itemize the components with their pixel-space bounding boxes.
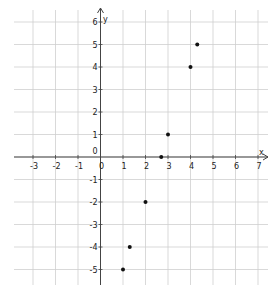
y-tick-label: -5 bbox=[90, 266, 98, 275]
x-tick-label: 2 bbox=[144, 162, 149, 171]
x-tick-label: -1 bbox=[75, 162, 83, 171]
scatter-plot: xy -3-2-101234567-5-4-3-2-11234560 bbox=[0, 0, 280, 302]
x-tick-label: -2 bbox=[53, 162, 61, 171]
x-tick-label: 3 bbox=[166, 162, 171, 171]
y-axis-label: y bbox=[103, 15, 108, 24]
y-tick-label: -2 bbox=[90, 198, 98, 207]
y-tick-label: -4 bbox=[90, 243, 98, 252]
data-point bbox=[144, 200, 148, 204]
data-point bbox=[189, 65, 193, 69]
data-point bbox=[128, 245, 132, 249]
axes: xy bbox=[14, 8, 268, 285]
x-tick-label: 7 bbox=[256, 162, 261, 171]
origin-label: 0 bbox=[92, 147, 97, 156]
y-tick-label: 3 bbox=[92, 86, 97, 95]
data-point bbox=[121, 268, 125, 272]
y-tick-label: -3 bbox=[90, 221, 98, 230]
x-axis-label: x bbox=[259, 148, 264, 157]
x-tick-label: 0 bbox=[99, 162, 104, 171]
y-tick-label: 5 bbox=[92, 41, 97, 50]
x-tick-label: 5 bbox=[211, 162, 216, 171]
y-tick-label: 6 bbox=[92, 18, 97, 27]
y-tick-label: 1 bbox=[92, 131, 97, 140]
grid-lines bbox=[14, 10, 268, 285]
x-tick-label: -3 bbox=[30, 162, 38, 171]
x-tick-label: 4 bbox=[189, 162, 194, 171]
y-tick-label: 4 bbox=[92, 63, 97, 72]
data-point bbox=[166, 133, 170, 137]
data-point bbox=[159, 155, 163, 159]
y-tick-label: -1 bbox=[90, 176, 98, 185]
data-point bbox=[195, 43, 199, 47]
x-tick-label: 1 bbox=[121, 162, 126, 171]
y-tick-label: 2 bbox=[92, 108, 97, 117]
x-tick-label: 6 bbox=[234, 162, 239, 171]
